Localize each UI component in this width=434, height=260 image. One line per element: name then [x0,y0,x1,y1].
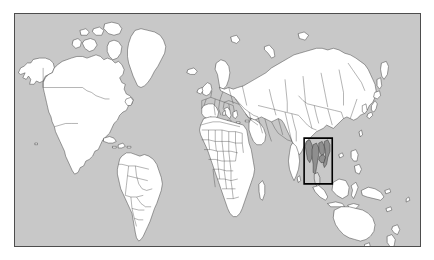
land-sulawesi [351,182,358,198]
land-ellesmere-island [104,22,122,35]
land-fiji [407,197,410,202]
land-new-guinea [362,187,385,200]
land-borneo [332,179,349,199]
land-korea [363,104,368,114]
land-iberia-western-europe [202,104,219,119]
land-arctic-island-a [93,27,104,35]
land-new-zealand-south [387,235,395,246]
world-map-figure [0,0,434,260]
land-malay-peninsula [314,172,320,187]
land-puerto-rico [128,146,131,148]
land-sardinia-corsica [223,110,225,115]
land-new-caledonia [386,207,392,212]
land-solomon-islands [385,189,391,194]
land-greenland [128,29,166,88]
land-novaya-zemlya [265,45,275,58]
land-new-zealand-north [392,225,400,235]
land-java [328,202,345,207]
land-philippines-mindanao [355,164,362,174]
land-iceland [187,68,197,75]
continent-north-america [18,22,165,174]
land-sakhalin [377,78,382,89]
land-sumatra [313,186,328,201]
land-cyprus [246,120,249,122]
land-kamchatka [381,61,389,79]
land-greece-balkans-tip [233,110,238,118]
continent-south-america [117,153,162,241]
land-baffin-island [107,40,122,60]
land-hispaniola [119,143,126,148]
land-madagascar [259,181,265,201]
land-hawaii [35,143,37,145]
land-scandinavia [215,60,230,89]
land-ireland [197,88,203,95]
land-victoria-island [83,39,98,52]
land-banks-island [72,39,81,49]
land-australia [333,207,375,241]
land-thailand [312,143,319,174]
land-laos [319,141,325,156]
map-frame [14,13,421,247]
land-arctic-island-b [80,29,89,36]
land-north-america-mainland [43,55,133,174]
land-hainan [339,153,344,158]
land-japan-south [367,112,373,119]
land-arabia [249,119,266,145]
land-svalbard [231,35,240,43]
land-taiwan [359,130,362,137]
land-jamaica [113,146,116,148]
land-arctic-islands-russia [299,32,309,40]
land-sri-lanka [297,176,300,183]
land-cuba [104,137,116,144]
land-africa [200,117,255,217]
world-map-svg[interactable] [15,14,420,246]
land-philippines-luzon [351,150,358,161]
land-south-america [117,153,162,241]
land-vietnam [323,140,330,168]
land-great-britain [202,83,212,96]
land-tasmania [365,243,371,246]
region-southeast-asia [305,140,384,209]
